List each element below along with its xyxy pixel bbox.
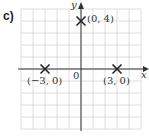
point-label-3-0: (3, 0) — [103, 75, 130, 86]
origin-label: 0 — [73, 70, 79, 81]
y-axis-label: y — [71, 0, 77, 10]
point-label-0-4: (0, 4) — [87, 13, 114, 24]
x-axis-label: x — [141, 69, 147, 80]
y-axis-arrow-icon — [78, 2, 84, 9]
coordinate-grid — [0, 0, 149, 138]
point-label-neg3-0: (−3, 0) — [27, 75, 62, 86]
